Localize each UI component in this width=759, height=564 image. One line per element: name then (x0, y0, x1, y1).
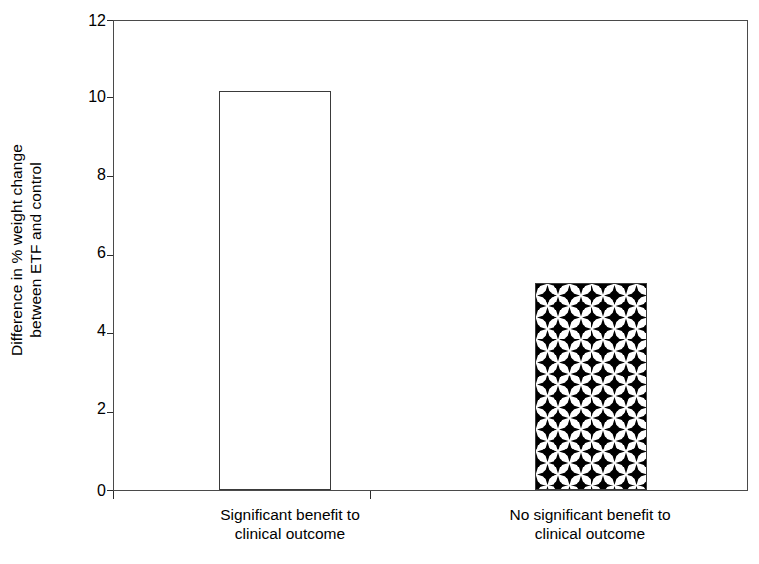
x-tick-mark-left (113, 491, 114, 499)
x-category-label-0-line2: clinical outcome (155, 524, 425, 543)
y-axis-title-line2: between ETF and control (26, 144, 45, 356)
bar-no-significant-benefit[interactable] (535, 283, 647, 490)
y-tick-label-6: 6 (58, 245, 106, 261)
y-tick-label-2: 2 (58, 401, 106, 417)
y-axis-title-line1: Difference in % weight change (8, 144, 25, 356)
y-axis-title: Difference in % weight change between ET… (0, 0, 52, 500)
x-tick-mark-middle (370, 491, 371, 499)
x-category-label-1-line2: clinical outcome (455, 524, 725, 543)
bar-chart-figure: Difference in % weight change between ET… (0, 0, 759, 564)
y-tick-label-10: 10 (58, 89, 106, 105)
x-category-label-0: Significant benefit to clinical outcome (155, 505, 425, 543)
y-axis-tick-labels: 12 10 8 6 4 2 0 (56, 0, 106, 520)
x-category-label-0-line1: Significant benefit to (220, 506, 360, 523)
bar-significant-benefit[interactable] (219, 91, 331, 490)
y-tick-label-4: 4 (58, 323, 106, 339)
y-tick-label-0: 0 (58, 483, 106, 499)
plot-area (113, 20, 748, 491)
y-tick-label-8: 8 (58, 167, 106, 183)
y-tick-label-12: 12 (58, 13, 106, 29)
y-axis-title-text: Difference in % weight change between ET… (7, 144, 45, 356)
x-category-label-1-line1: No significant benefit to (509, 506, 670, 523)
x-category-label-1: No significant benefit to clinical outco… (455, 505, 725, 543)
